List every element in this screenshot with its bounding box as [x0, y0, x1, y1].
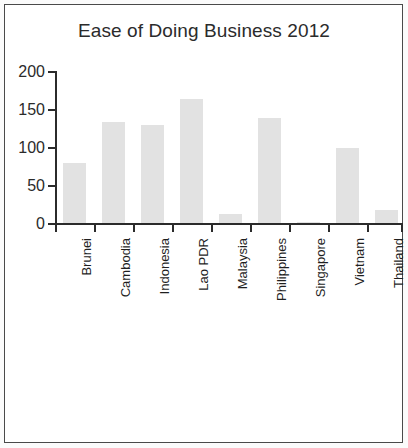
- x-axis-line: [55, 223, 403, 225]
- y-tick-50: [48, 185, 56, 187]
- y-tick-150: [48, 109, 56, 111]
- bar-singapore: [297, 222, 320, 223]
- y-tick-label-150: 150: [0, 102, 45, 118]
- x-tick-boundary: [172, 225, 174, 232]
- x-tick-boundary: [401, 225, 403, 232]
- x-label-philippines: Philippines: [275, 238, 288, 301]
- x-tick-boundary: [55, 225, 57, 232]
- bar-cambodia: [102, 122, 125, 223]
- x-tick-boundary: [250, 225, 252, 232]
- x-label-cambodia: Cambodia: [119, 238, 132, 297]
- bar-philippines: [258, 118, 281, 223]
- y-tick-label-100: 100: [0, 140, 45, 156]
- y-tick-label-0: 0: [0, 216, 45, 232]
- bar-lao-pdr: [180, 99, 203, 223]
- plot-area: 200 150 100 50 0 Brunei Cambodia In: [0, 0, 408, 448]
- x-label-lao-pdr: Lao PDR: [197, 238, 210, 291]
- x-label-singapore: Singapore: [314, 238, 327, 297]
- x-label-vietnam: Vietnam: [353, 238, 366, 285]
- bar-vietnam: [336, 148, 359, 223]
- y-tick-100: [48, 147, 56, 149]
- x-tick-boundary: [94, 225, 96, 232]
- y-tick-label-50: 50: [0, 178, 45, 194]
- x-label-indonesia: Indonesia: [158, 238, 171, 294]
- bar-thailand: [375, 210, 398, 223]
- x-tick-boundary: [211, 225, 213, 232]
- x-label-brunei: Brunei: [80, 238, 93, 276]
- x-tick-boundary: [133, 225, 135, 232]
- bar-indonesia: [141, 125, 164, 223]
- x-tick-boundary: [289, 225, 291, 232]
- x-label-malaysia: Malaysia: [236, 238, 249, 289]
- x-tick-boundary: [367, 225, 369, 232]
- chart-figure: Ease of Doing Business 2012 200 150 100 …: [0, 0, 408, 448]
- x-tick-boundary: [328, 225, 330, 232]
- bar-brunei: [63, 163, 86, 223]
- bar-malaysia: [219, 214, 242, 223]
- y-tick-label-200: 200: [0, 64, 45, 80]
- x-label-thailand: Thailand: [392, 238, 405, 288]
- y-tick-200: [48, 71, 56, 73]
